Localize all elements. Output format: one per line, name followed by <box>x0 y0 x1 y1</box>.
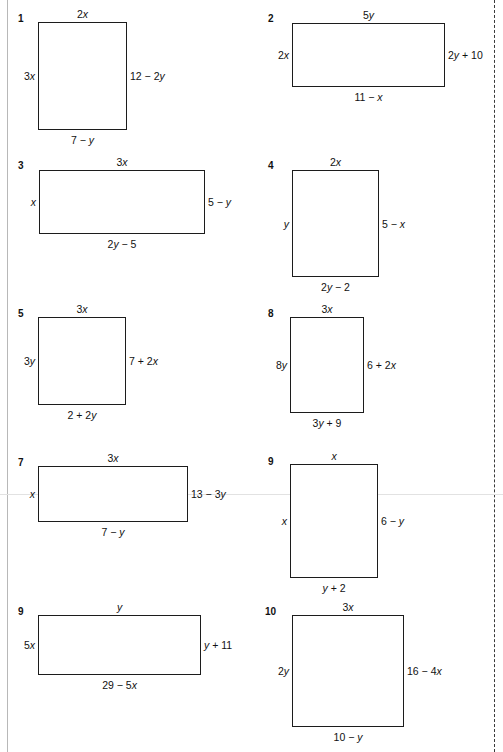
rectangle-shape <box>38 317 126 405</box>
rectangle-shape <box>290 464 378 578</box>
rectangle-shape <box>39 170 205 234</box>
side-label-right: 6 + 2x <box>367 360 396 371</box>
side-label-top: 3x <box>321 304 332 315</box>
side-label-left: x <box>282 516 287 527</box>
rectangle-shape <box>38 615 201 675</box>
question-number: 8 <box>268 309 274 319</box>
side-label-right: 5 − y <box>208 197 231 208</box>
side-label-right: y + 11 <box>204 640 232 651</box>
rectangle-shape <box>290 317 364 413</box>
side-label-top: 3x <box>342 602 353 613</box>
question-number: 1 <box>18 14 24 24</box>
side-label-top: y <box>117 602 122 613</box>
question-number: 5 <box>18 309 24 319</box>
side-label-left: 3x <box>24 71 35 82</box>
rectangle-shape <box>292 170 379 277</box>
side-label-left: 5x <box>24 640 35 651</box>
side-label-bottom: 10 − y <box>334 732 363 743</box>
question-number: 3 <box>18 161 24 171</box>
side-label-right: 5 − x <box>382 218 405 229</box>
question-number: 4 <box>268 161 274 171</box>
rectangle-shape <box>38 466 188 522</box>
side-label-bottom: 11 − x <box>354 92 382 103</box>
side-label-bottom: y + 2 <box>322 583 345 594</box>
side-label-bottom: 7 − y <box>71 135 94 146</box>
side-label-top: 3x <box>107 453 118 464</box>
side-label-left: 2x <box>278 50 289 61</box>
side-label-top: 3x <box>76 304 87 315</box>
question-number: 9 <box>268 457 274 467</box>
side-label-left: 3y <box>24 356 35 367</box>
side-label-top: 2x <box>330 157 341 168</box>
rectangle-shape <box>292 23 445 87</box>
worksheet-page: 12x7 − y3x12 − 2y25y11 − x2x2y + 1033x2y… <box>0 0 503 752</box>
side-label-top: x <box>331 451 336 462</box>
left-margin-rule <box>7 0 8 752</box>
side-label-bottom: 2y − 2 <box>321 282 350 293</box>
side-label-top: 3x <box>116 157 127 168</box>
side-label-bottom: 29 − 5x <box>102 680 137 691</box>
side-label-bottom: 2y − 5 <box>108 239 137 250</box>
rectangle-shape <box>38 22 127 130</box>
question-number: 9 <box>18 607 24 617</box>
side-label-left: 8y <box>276 360 287 371</box>
rectangle-shape <box>292 615 404 727</box>
side-label-right: 2y + 10 <box>448 50 483 61</box>
side-label-left: 2y <box>278 666 289 677</box>
question-number: 7 <box>18 458 24 468</box>
side-label-left: y <box>284 218 289 229</box>
side-label-bottom: 2 + 2y <box>68 410 97 421</box>
question-number: 10 <box>265 607 276 617</box>
side-label-right: 16 − 4x <box>407 666 442 677</box>
right-dashed-rule <box>494 0 495 752</box>
side-label-top: 5y <box>363 10 374 21</box>
side-label-right: 12 − 2y <box>130 71 165 82</box>
side-label-right: 13 − 3y <box>191 489 226 500</box>
side-label-right: 7 + 2x <box>129 356 158 367</box>
side-label-bottom: 7 − y <box>101 527 124 538</box>
side-label-left: x <box>30 489 35 500</box>
question-number: 2 <box>268 14 274 24</box>
side-label-top: 2x <box>77 9 88 20</box>
side-label-right: 6 − y <box>381 516 404 527</box>
side-label-left: x <box>31 197 36 208</box>
side-label-bottom: 3y + 9 <box>313 418 342 429</box>
